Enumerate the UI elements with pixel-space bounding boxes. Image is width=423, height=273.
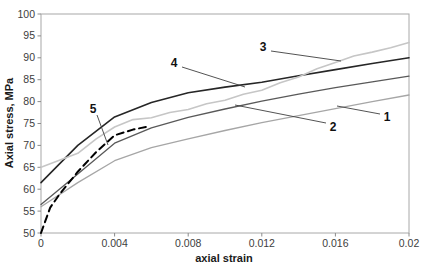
stress-strain-line-chart: 00.0040.0080.0120.0160.02505560657075808… xyxy=(0,0,423,273)
x-tick-label: 0 xyxy=(38,237,44,249)
curve-4 xyxy=(41,58,409,183)
y-tick-label: 60 xyxy=(23,183,35,195)
plot-border xyxy=(41,14,409,233)
x-tick-label: 0.02 xyxy=(399,237,420,249)
y-tick-label: 95 xyxy=(23,29,35,41)
curve-lines xyxy=(41,43,409,234)
y-tick-label: 65 xyxy=(23,161,35,173)
x-tick-label: 0.004 xyxy=(101,237,127,249)
leader-line-1 xyxy=(337,106,380,114)
x-tick-label: 0.008 xyxy=(175,237,201,249)
y-tick-label: 50 xyxy=(23,227,35,239)
leader-line-4 xyxy=(182,67,245,87)
y-tick-label: 55 xyxy=(23,205,35,217)
curve-label-4: 4 xyxy=(171,56,178,70)
stress-strain-chart-figure: 00.0040.0080.0120.0160.02505560657075808… xyxy=(0,0,423,273)
curve-label-5: 5 xyxy=(90,102,97,116)
leader-line-3 xyxy=(271,51,341,61)
plot-frame xyxy=(41,14,409,233)
curve-label-2: 2 xyxy=(330,120,337,134)
y-tick-label: 75 xyxy=(23,117,35,129)
curve-label-1: 1 xyxy=(384,110,391,124)
curve-label-3: 3 xyxy=(260,40,267,54)
axis-ticks: 00.0040.0080.0120.0160.02505560657075808… xyxy=(17,8,419,250)
y-tick-label: 80 xyxy=(23,95,35,107)
x-axis-title: axial strain xyxy=(195,252,253,264)
x-tick-label: 0.016 xyxy=(322,237,348,249)
curve-2 xyxy=(41,76,409,204)
y-tick-label: 70 xyxy=(23,139,35,151)
y-axis-title: Axial stress, MPa xyxy=(3,77,15,168)
y-tick-label: 85 xyxy=(23,73,35,85)
x-tick-label: 0.012 xyxy=(249,237,275,249)
curve-5 xyxy=(41,127,146,233)
leader-line-2 xyxy=(235,105,326,123)
y-tick-label: 90 xyxy=(23,51,35,63)
y-tick-label: 100 xyxy=(17,8,35,20)
